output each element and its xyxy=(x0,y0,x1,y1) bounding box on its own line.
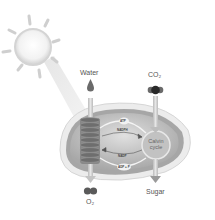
co2-molecule-icon xyxy=(148,86,164,95)
atp-label: ATP xyxy=(120,119,126,123)
thylakoid-stack-icon xyxy=(80,118,100,164)
nadph-label: NADPH xyxy=(117,128,128,132)
calvin-cycle-label: Calvin cycle xyxy=(146,138,166,150)
o2-molecule-icon xyxy=(84,187,97,194)
water-label: Water xyxy=(80,69,98,76)
o2-label: O₂ xyxy=(86,198,94,205)
nadp-label: NADP xyxy=(118,154,127,158)
co2-label: CO₂ xyxy=(148,71,161,78)
sugar-label: Sugar xyxy=(146,188,165,195)
calvin-label-line2: cycle xyxy=(146,144,166,150)
photosynthesis-diagram: Water CO₂ O₂ Sugar Calvin cycle ATP NADP… xyxy=(0,0,215,220)
adp-label: ADP + P xyxy=(118,165,130,169)
water-drop-icon xyxy=(87,79,94,92)
water-input-arrow xyxy=(88,98,93,118)
